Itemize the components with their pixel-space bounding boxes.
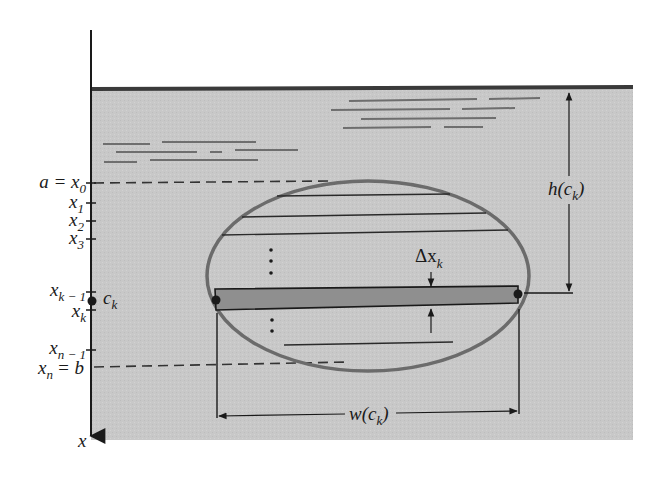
- tick-label-xk-1: xk − 1: [49, 279, 86, 304]
- tick-label-xn: xn= b: [37, 357, 84, 382]
- tick-label-x0: a = x0: [39, 171, 86, 196]
- fluid-region: [91, 88, 633, 440]
- fluid-surface-line: [91, 87, 633, 89]
- x-axis-label: x: [77, 430, 87, 451]
- fluid-force-diagram: x a = x0 x1 x2 x3 xk − 1 xk xn − 1 xn= b…: [0, 0, 670, 479]
- sample-point-ck: [88, 297, 97, 306]
- strip-right-endpoint: [514, 290, 523, 299]
- strip-left-endpoint: [212, 296, 221, 305]
